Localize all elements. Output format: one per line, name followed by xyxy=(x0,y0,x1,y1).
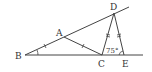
angle-arc-B xyxy=(37,50,38,55)
label-D: D xyxy=(110,2,117,12)
label-B: B xyxy=(15,51,22,61)
geometry-diagram: A B C D E 75° xyxy=(0,0,152,72)
label-E: E xyxy=(122,59,129,69)
tick-DE-2 xyxy=(117,36,121,37)
tick-CD-2 xyxy=(106,36,110,37)
angle-arc-E xyxy=(119,51,123,55)
tick-DE-1 xyxy=(117,34,121,35)
label-A: A xyxy=(55,28,63,38)
angle-label: 75° xyxy=(106,47,118,55)
tick-CD-1 xyxy=(106,34,110,35)
label-C: C xyxy=(98,59,105,69)
